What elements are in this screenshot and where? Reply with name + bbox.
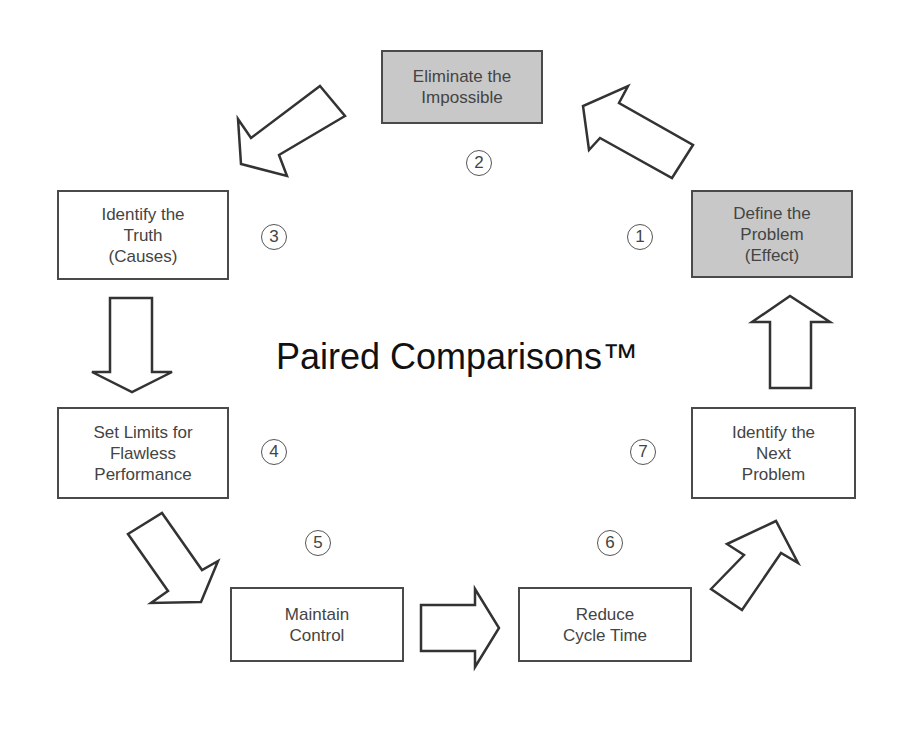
step-box-1: Define the Problem (Effect)	[691, 190, 853, 278]
step-label-7: Identify the Next Problem	[732, 422, 815, 485]
diagram-title: Paired Comparisons™	[0, 336, 914, 378]
step-number-1-text: 1	[635, 227, 644, 247]
step-number-5-text: 5	[313, 533, 322, 553]
arrow-down-right-icon	[128, 513, 218, 603]
step-box-3: Identify the Truth (Causes)	[57, 190, 229, 280]
step-number-7: 7	[630, 439, 656, 465]
step-number-4: 4	[261, 439, 287, 465]
step-number-4-text: 4	[269, 442, 278, 462]
step-label-6: Reduce Cycle Time	[563, 604, 647, 646]
step-box-6: Reduce Cycle Time	[518, 587, 692, 662]
step-number-3-text: 3	[269, 227, 278, 247]
step-number-5: 5	[305, 530, 331, 556]
arrow-down-left-icon	[238, 86, 345, 176]
arrow-up-right-icon	[711, 521, 798, 610]
step-box-7: Identify the Next Problem	[691, 407, 856, 499]
step-box-2: Eliminate the Impossible	[381, 50, 543, 124]
step-box-5: Maintain Control	[230, 587, 404, 662]
step-number-1: 1	[627, 224, 653, 250]
step-number-7-text: 7	[638, 442, 647, 462]
step-number-2: 2	[466, 150, 492, 176]
step-label-2: Eliminate the Impossible	[413, 66, 511, 108]
step-label-3: Identify the Truth (Causes)	[101, 204, 184, 267]
step-number-2-text: 2	[474, 153, 483, 173]
arrow-up-left-icon	[583, 86, 693, 178]
step-label-4: Set Limits for Flawless Performance	[93, 422, 192, 485]
step-label-5: Maintain Control	[285, 604, 349, 646]
step-number-6-text: 6	[605, 533, 614, 553]
arrow-right-icon	[421, 589, 499, 667]
step-number-6: 6	[597, 530, 623, 556]
step-number-3: 3	[261, 224, 287, 250]
step-label-1: Define the Problem (Effect)	[733, 203, 811, 266]
step-box-4: Set Limits for Flawless Performance	[57, 407, 229, 499]
